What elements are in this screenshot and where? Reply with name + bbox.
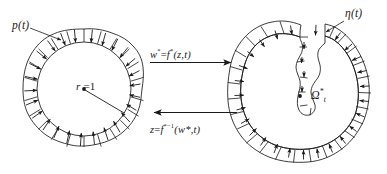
inverse-map-exponent: *−1 bbox=[164, 122, 175, 129]
radius-label-eq: =1 bbox=[80, 80, 95, 92]
domain-center-dot bbox=[298, 94, 302, 98]
eta-label-leader bbox=[326, 21, 344, 32]
domain-inner-boundary bbox=[241, 34, 359, 150]
radius-line bbox=[85, 90, 124, 113]
radius-label: r =1 bbox=[76, 81, 96, 92]
domain-label: Ω*t bbox=[311, 88, 326, 104]
map-arrows-group bbox=[150, 63, 237, 113]
figure-canvas bbox=[0, 0, 387, 174]
deformed-domain-group bbox=[228, 21, 371, 163]
forward-map-label: w*=f*(z,t) bbox=[150, 48, 191, 60]
inverse-map-label: z=f*−1(w*,t) bbox=[150, 123, 200, 135]
forward-map-args: (z,t) bbox=[173, 49, 191, 60]
domain-label-base: Ω bbox=[311, 88, 320, 102]
pressure-label: p(t) bbox=[12, 20, 29, 32]
conformal-map-figure: p(t) r =1 w*=f*(z,t) z=f*−1(w*,t) η(t) Ω… bbox=[0, 0, 387, 174]
domain-label-sub: t bbox=[324, 95, 326, 104]
interface-label: η(t) bbox=[345, 8, 362, 20]
inverse-map-args: (w*,t) bbox=[174, 124, 200, 135]
